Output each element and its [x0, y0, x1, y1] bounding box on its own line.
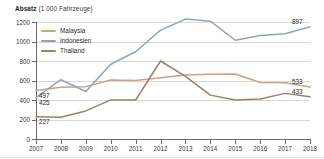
- y-axis-tick: [32, 42, 36, 43]
- data-value-label: 533: [292, 78, 303, 86]
- data-value-label: 433: [292, 88, 303, 96]
- x-axis-tick: [310, 140, 311, 144]
- x-axis-tick: [235, 140, 236, 144]
- x-axis-tick: [36, 140, 37, 144]
- y-axis-tick: [32, 100, 36, 101]
- bottom-divider: [0, 157, 324, 158]
- x-axis-tick: [210, 140, 211, 144]
- y-axis-tick: [32, 81, 36, 82]
- x-axis-tick: [111, 140, 112, 144]
- data-value-label: 425: [39, 99, 50, 107]
- x-axis-tick: [86, 140, 87, 144]
- y-axis-tick: [32, 61, 36, 62]
- data-value-label: 227: [39, 118, 50, 126]
- data-value-label: 897: [292, 18, 303, 26]
- line-chart: Absatz (1 000 Fahrzeuge) 020040060080010…: [0, 0, 324, 159]
- x-axis-tick: [260, 140, 261, 144]
- x-axis-tick: [136, 140, 137, 144]
- x-axis-tick: [285, 140, 286, 144]
- x-axis-tick-label: 2018: [293, 145, 324, 153]
- series-line-indonesien: [36, 19, 310, 97]
- y-axis-tick: [32, 120, 36, 121]
- x-axis-tick: [61, 140, 62, 144]
- y-axis-tick: [32, 22, 36, 23]
- series-line-thailand: [36, 61, 310, 117]
- series-lines: [0, 0, 324, 159]
- x-axis-tick: [185, 140, 186, 144]
- x-axis-tick: [161, 140, 162, 144]
